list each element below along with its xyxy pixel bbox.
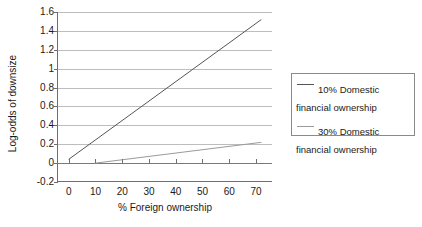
legend-item-1: 30% Domestic financial ownership bbox=[296, 121, 410, 157]
y-tick-label: 0 bbox=[2, 158, 54, 168]
y-tick-label: 1.2 bbox=[2, 45, 54, 55]
x-tick-mark bbox=[95, 159, 96, 163]
y-tick-label: 0.6 bbox=[2, 101, 54, 111]
chart-legend: 10% Domestic financial ownership 30% Dom… bbox=[291, 73, 415, 136]
y-tick-label: 0.4 bbox=[2, 120, 54, 130]
x-axis-title: % Foreign ownership bbox=[58, 202, 272, 213]
x-tick-mark bbox=[122, 159, 123, 163]
y-tick-label: 0.2 bbox=[2, 139, 54, 149]
x-tick-mark bbox=[229, 159, 230, 163]
x-tick-label: 30 bbox=[134, 186, 164, 197]
y-tick-label: -0.2 bbox=[2, 177, 54, 187]
x-tick-mark bbox=[149, 159, 150, 163]
x-tick-label: 40 bbox=[161, 186, 191, 197]
x-tick-label: 50 bbox=[187, 186, 217, 197]
x-tick-mark bbox=[202, 159, 203, 163]
legend-label-series-2: 30% Domestic financial ownership bbox=[296, 126, 379, 155]
x-tick-label: 10 bbox=[80, 186, 110, 197]
x-tick-mark bbox=[256, 159, 257, 163]
x-tick-label: 0 bbox=[54, 186, 84, 197]
y-tick-label: 1 bbox=[2, 64, 54, 74]
y-tick-label: 0.8 bbox=[2, 83, 54, 93]
legend-line-swatch-series-2 bbox=[297, 126, 314, 127]
series-line-2 bbox=[95, 142, 261, 163]
x-tick-label: 20 bbox=[107, 186, 137, 197]
chart-figure: Log-odds of downsize -0.200.20.40.60.811… bbox=[0, 0, 422, 227]
series-line-1 bbox=[69, 20, 262, 160]
y-tick-label: 1.6 bbox=[2, 7, 54, 17]
y-axis-tick-labels: -0.200.20.40.60.811.21.41.6 bbox=[0, 0, 54, 227]
legend-item-0: 10% Domestic financial ownership bbox=[296, 79, 410, 115]
x-tick-mark bbox=[176, 159, 177, 163]
x-tick-label: 60 bbox=[214, 186, 244, 197]
x-tick-mark bbox=[69, 159, 70, 163]
data-series-layer bbox=[58, 12, 272, 182]
legend-line-swatch-series-1 bbox=[297, 84, 314, 85]
x-tick-label: 70 bbox=[241, 186, 271, 197]
y-tick-mark bbox=[54, 182, 58, 183]
legend-label-series-1: 10% Domestic financial ownership bbox=[296, 84, 379, 113]
y-tick-label: 1.4 bbox=[2, 26, 54, 36]
